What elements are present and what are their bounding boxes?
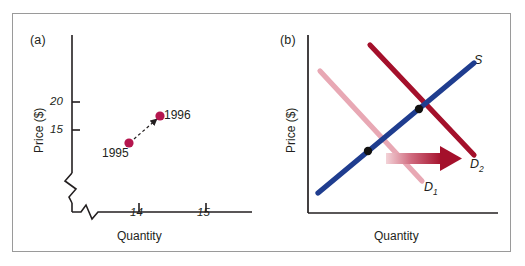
equilibrium-point-initial: [364, 147, 372, 155]
panel-a: (a) Price ($) Quantity 20 15 14 15 1996 …: [12, 13, 262, 252]
demand-shift-arrow: [386, 146, 462, 171]
x-axis-line-with-break: [72, 205, 252, 219]
economics-figure: (a) Price ($) Quantity 20 15 14 15 1996 …: [0, 0, 525, 266]
panel-b-plot: [262, 13, 511, 252]
data-point-1995: [124, 138, 133, 147]
equilibrium-point-new: [415, 105, 423, 113]
panel-a-plot: [12, 13, 262, 252]
y-axis-break-icon: [65, 173, 76, 203]
trend-arrow: [134, 119, 157, 139]
data-point-1996: [155, 111, 164, 120]
panel-b: (b) Price ($) Quantity S D1 D2: [262, 13, 511, 252]
